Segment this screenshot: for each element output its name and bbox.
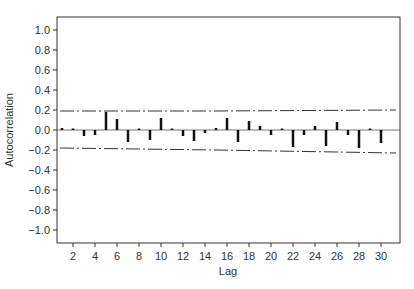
acf-bar-lag-24 — [314, 126, 317, 130]
acf-bar-lag-27 — [347, 130, 350, 135]
acf-bar-lag-16 — [226, 118, 229, 130]
x-tick-label: 12 — [177, 250, 189, 262]
y-tick-label: 0.0 — [35, 124, 50, 136]
y-tick-label: 0.8 — [35, 44, 50, 56]
acf-bar-lag-7 — [127, 130, 130, 142]
x-tick-label: 26 — [331, 250, 343, 262]
acf-bar-lag-22 — [292, 130, 295, 147]
acf-bar-lag-23 — [303, 130, 306, 135]
x-tick-label: 28 — [353, 250, 365, 262]
acf-bar-lag-11 — [171, 129, 174, 131]
acf-bar-lag-21 — [281, 129, 284, 131]
x-tick-label: 30 — [375, 250, 387, 262]
acf-bar-lag-20 — [270, 130, 273, 135]
y-tick-label: −0.4 — [28, 164, 50, 176]
x-axis-ticks: 24681012141618202224262830 — [70, 243, 387, 262]
acf-bar-lag-15 — [215, 128, 218, 130]
acf-bar-lag-10 — [160, 118, 163, 130]
confidence-bands — [60, 110, 396, 153]
acf-bar-lag-25 — [325, 130, 328, 146]
acf-bar-lag-9 — [149, 130, 152, 140]
x-tick-label: 16 — [221, 250, 233, 262]
acf-bar-lag-18 — [248, 121, 251, 130]
x-tick-label: 6 — [114, 250, 120, 262]
x-tick-label: 22 — [287, 250, 299, 262]
y-tick-label: −1.0 — [28, 224, 50, 236]
confidence-band-lower — [60, 148, 396, 153]
y-axis-title: Autocorrelation — [3, 93, 15, 167]
acf-bar-lag-4 — [94, 130, 97, 135]
acf-chart: 1.00.80.60.40.20.0−0.2−0.4−0.6−0.8−1.0 2… — [0, 0, 414, 289]
y-tick-label: −0.8 — [28, 204, 50, 216]
y-axis-ticks: 1.00.80.60.40.20.0−0.2−0.4−0.6−0.8−1.0 — [28, 24, 57, 236]
acf-bar-lag-14 — [204, 130, 207, 133]
acf-bar-lag-26 — [336, 122, 339, 130]
y-tick-label: 1.0 — [35, 24, 50, 36]
acf-bar-lag-29 — [369, 129, 372, 131]
acf-bar-lag-8 — [138, 129, 141, 131]
acf-bar-lag-28 — [358, 130, 361, 148]
y-tick-label: 0.6 — [35, 64, 50, 76]
y-tick-label: −0.6 — [28, 184, 50, 196]
acf-bar-lag-2 — [72, 129, 75, 131]
acf-bar-lag-19 — [259, 126, 262, 130]
x-axis-title: Lag — [219, 265, 237, 277]
x-tick-label: 2 — [70, 250, 76, 262]
x-tick-label: 14 — [199, 250, 211, 262]
acf-bar-lag-13 — [193, 130, 196, 141]
x-tick-label: 24 — [309, 250, 321, 262]
acf-bar-lag-3 — [83, 130, 86, 136]
x-tick-label: 20 — [265, 250, 277, 262]
y-tick-label: 0.2 — [35, 104, 50, 116]
acf-bar-lag-5 — [105, 112, 108, 130]
x-tick-label: 4 — [92, 250, 98, 262]
confidence-band-upper — [60, 110, 396, 111]
y-tick-label: 0.4 — [35, 84, 50, 96]
x-tick-label: 18 — [243, 250, 255, 262]
acf-bar-lag-1 — [61, 128, 64, 130]
acf-bar-lag-12 — [182, 130, 185, 136]
x-tick-label: 10 — [155, 250, 167, 262]
x-tick-label: 8 — [136, 250, 142, 262]
acf-bar-lag-30 — [380, 130, 383, 143]
acf-bar-lag-6 — [116, 119, 119, 130]
acf-bar-lag-17 — [237, 130, 240, 142]
y-tick-label: −0.2 — [28, 144, 50, 156]
